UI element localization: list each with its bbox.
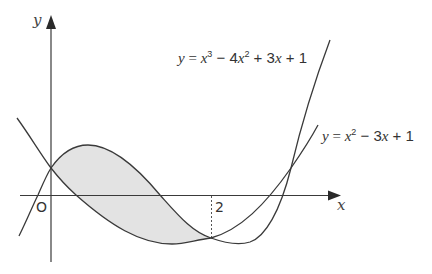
eq1-lhs: y xyxy=(178,50,185,66)
eq1-equals: = xyxy=(185,50,201,66)
eq1-op2: + 3 xyxy=(249,49,274,66)
eq1-term3: x xyxy=(275,50,282,66)
tick-label-2: 2 xyxy=(215,199,224,215)
eq1-op1: − 4 xyxy=(212,49,237,66)
y-axis-label: y xyxy=(32,11,42,29)
eq2-op1: − 3 xyxy=(356,127,381,144)
eq2-equals: = xyxy=(329,128,345,144)
eq2-tail: + 1 xyxy=(388,127,413,144)
cubic-equation-label: y = x3 − 4x2 + 3x + 1 xyxy=(178,49,307,67)
x-axis-label: x xyxy=(337,196,346,214)
quadratic-equation-label: y = x2 − 3x + 1 xyxy=(322,127,414,145)
eq1-tail: + 1 xyxy=(282,49,307,66)
origin-label: O xyxy=(36,199,47,215)
y-axis-arrow-icon xyxy=(46,15,56,29)
eq2-lhs: y xyxy=(322,128,329,144)
